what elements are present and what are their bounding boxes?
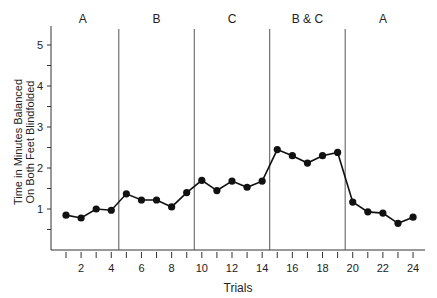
x-tick-label: 20 <box>347 262 359 274</box>
data-point <box>93 205 100 212</box>
y-axis-label-line1: Time in Minutes Balanced <box>12 62 24 222</box>
phase-label: B <box>153 12 161 26</box>
data-point <box>304 159 311 166</box>
data-point <box>409 214 416 221</box>
x-tick-label: 22 <box>377 262 389 274</box>
y-tick-label: 4 <box>37 80 43 92</box>
data-point <box>77 214 84 221</box>
y-axis-label: Time in Minutes Balanced On Both Feet Bl… <box>12 62 36 222</box>
data-point <box>228 178 235 185</box>
x-tick-label: 6 <box>138 262 144 274</box>
data-point <box>108 207 115 214</box>
data-point <box>168 203 175 210</box>
x-tick-label: 18 <box>316 262 328 274</box>
data-point <box>364 208 371 215</box>
x-tick-label: 14 <box>256 262 268 274</box>
data-point <box>138 196 145 203</box>
data-point <box>289 152 296 159</box>
line-chart: 1234524681012141618202224ABCB & CATrials <box>0 0 437 298</box>
x-tick-label: 8 <box>169 262 175 274</box>
data-point <box>243 184 250 191</box>
data-point <box>123 190 130 197</box>
data-point <box>198 177 205 184</box>
x-tick-label: 24 <box>407 262 419 274</box>
data-point <box>153 196 160 203</box>
data-point <box>259 178 266 185</box>
data-point <box>183 189 190 196</box>
x-tick-label: 16 <box>286 262 298 274</box>
phase-label: A <box>79 12 87 26</box>
data-point <box>319 152 326 159</box>
x-tick-label: 12 <box>226 262 238 274</box>
x-tick-label: 4 <box>108 262 114 274</box>
phase-label: C <box>228 12 237 26</box>
data-point <box>394 220 401 227</box>
y-tick-label: 2 <box>37 162 43 174</box>
x-tick-label: 10 <box>196 262 208 274</box>
data-point <box>274 146 281 153</box>
data-point <box>62 212 69 219</box>
data-line <box>66 150 413 224</box>
data-point <box>349 198 356 205</box>
data-point <box>379 210 386 217</box>
phase-label: B & C <box>292 12 324 26</box>
y-tick-label: 3 <box>37 121 43 133</box>
y-axis-label-line2: On Both Feet Blindfolded <box>24 62 36 222</box>
phase-label: A <box>379 12 387 26</box>
y-tick-label: 5 <box>37 39 43 51</box>
y-tick-label: 1 <box>37 203 43 215</box>
data-point <box>334 149 341 156</box>
x-tick-label: 2 <box>78 262 84 274</box>
data-point <box>213 187 220 194</box>
x-axis-label: Trials <box>224 281 253 295</box>
